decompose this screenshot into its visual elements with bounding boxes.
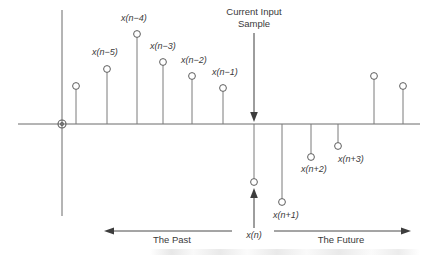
sample-marker xyxy=(371,73,378,80)
sample-marker xyxy=(160,59,167,66)
sample-marker xyxy=(73,83,80,90)
sample-label-x-n-minus-1: x(n−1) xyxy=(211,67,238,77)
sample-marker xyxy=(308,154,315,161)
future-span: The Future xyxy=(274,227,411,245)
sample-stem-x-n-plus-1: x(n+1) xyxy=(272,124,299,220)
current-sample-label-x-n: x(n) xyxy=(245,230,262,240)
sample-label-x-n-plus-1: x(n+1) xyxy=(272,210,299,220)
sample-label-x-n-minus-5: x(n−5) xyxy=(91,47,118,57)
sample-stem-x-n-plus-3: x(n+3) xyxy=(335,124,364,164)
sample-label-x-n-minus-2: x(n−2) xyxy=(180,55,207,65)
future-arrow-right-icon xyxy=(401,227,411,234)
sample-stem-x-n-minus-5: x(n−5) xyxy=(91,47,118,124)
sample-stem-unlabeled-future-5 xyxy=(400,83,407,124)
future-samples-group: x(n+1) x(n+2) x(n+3) xyxy=(251,73,407,220)
past-span: The Past xyxy=(104,227,232,245)
sample-stem-unlabeled-past-6 xyxy=(73,83,80,124)
past-arrow-left-icon xyxy=(104,227,114,234)
x-n-callout: x(n) xyxy=(245,188,262,240)
sample-marker xyxy=(134,31,141,38)
current-input-sample-annotation: Current Input Sample xyxy=(226,6,282,122)
sample-marker xyxy=(251,179,258,186)
sample-stem-x-n-minus-4: x(n−4) xyxy=(120,13,147,124)
sample-label-x-n-minus-3: x(n−3) xyxy=(149,41,176,51)
sample-marker xyxy=(220,85,227,92)
discrete-time-stem-plot: x(n−5) x(n−4) x(n−3) x(n−2) x(n−1) xyxy=(0,0,427,255)
sample-stem-x-n xyxy=(251,124,258,185)
sample-stem-x-n-minus-3: x(n−3) xyxy=(149,41,176,124)
sample-stem-x-n-minus-1: x(n−1) xyxy=(211,67,238,124)
sample-stem-x-n-plus-2: x(n+2) xyxy=(300,124,327,174)
figure-root: x(n−5) x(n−4) x(n−3) x(n−2) x(n−1) xyxy=(0,0,427,255)
sample-marker xyxy=(189,73,196,80)
past-region-label: The Past xyxy=(153,234,191,245)
sample-stem-x-n-minus-2: x(n−2) xyxy=(180,55,207,124)
sample-marker xyxy=(279,199,286,206)
sample-marker xyxy=(335,143,342,150)
current-input-arrow-down-icon xyxy=(250,112,258,122)
sample-stem-unlabeled-future-4 xyxy=(371,73,378,124)
sample-label-x-n-plus-2: x(n+2) xyxy=(300,164,327,174)
current-input-sample-label-line2: Sample xyxy=(238,18,270,29)
past-samples-group: x(n−5) x(n−4) x(n−3) x(n−2) x(n−1) xyxy=(73,13,238,124)
current-input-sample-label-line1: Current Input xyxy=(226,6,282,17)
x-n-arrow-up-icon xyxy=(250,188,258,198)
sample-marker xyxy=(400,83,407,90)
future-region-label: The Future xyxy=(318,234,364,245)
sample-marker xyxy=(104,66,111,73)
sample-label-x-n-plus-3: x(n+3) xyxy=(337,154,364,164)
sample-label-x-n-minus-4: x(n−4) xyxy=(120,13,147,23)
